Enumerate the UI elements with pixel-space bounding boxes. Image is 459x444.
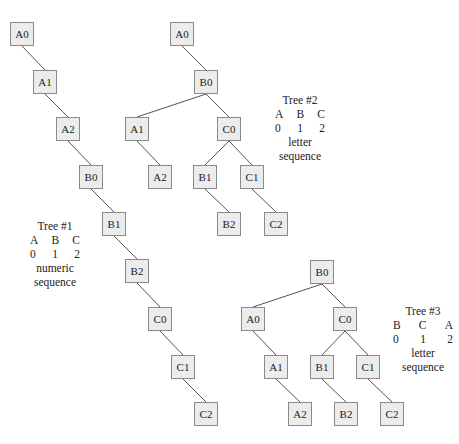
legend-letter: B — [296, 107, 304, 121]
tree1-node-c2: C2 — [194, 402, 218, 426]
legend-title: Tree #3 — [393, 304, 453, 318]
tree1-node-a1: A1 — [33, 70, 57, 94]
tree2-node-c1: C1 — [240, 165, 264, 189]
legend-number: 0 — [30, 247, 36, 261]
tree3-node-c1: C1 — [356, 355, 380, 379]
legend-letter: C — [419, 318, 427, 332]
legend-caption: sequence — [30, 275, 80, 289]
tree2-node-b0: B0 — [194, 70, 218, 94]
tree3-node-c0: C0 — [333, 307, 357, 331]
tree3-node-a2: A2 — [288, 402, 312, 426]
legend-title: Tree #1 — [30, 219, 80, 233]
legend-letters: A B C — [275, 107, 325, 121]
legend-caption: letter — [393, 346, 453, 360]
tree2-node-a1: A1 — [125, 117, 149, 141]
tree1-edge — [137, 283, 160, 307]
legend-letters: B C A — [393, 318, 453, 332]
tree3-node-a0: A0 — [241, 307, 265, 331]
tree1-edge — [160, 331, 183, 355]
legend-numbers: 0 1 2 — [393, 332, 453, 346]
tree3-node-b2: B2 — [334, 402, 358, 426]
tree2-node-b1: B1 — [193, 165, 217, 189]
legend-caption: sequence — [275, 149, 325, 163]
legend-number: 1 — [52, 247, 58, 261]
legend-tree2: Tree #2 A B C 0 1 2 letter sequence — [275, 93, 325, 163]
tree3-edge — [276, 379, 300, 402]
legend-letter: B — [393, 318, 401, 332]
legend-number: 1 — [297, 121, 303, 135]
tree3-node-c2: C2 — [380, 402, 404, 426]
tree1-node-b1: B1 — [102, 212, 126, 236]
tree2-edge — [205, 141, 229, 165]
legend-number: 2 — [319, 121, 325, 135]
legend-number: 0 — [393, 332, 399, 346]
legend-tree1: Tree #1 A B C 0 1 2 numeric sequence — [30, 219, 80, 289]
tree2-edge — [137, 94, 206, 117]
legend-caption: sequence — [393, 360, 453, 374]
tree3-edge — [345, 331, 368, 355]
legend-numbers: 0 1 2 — [275, 121, 325, 135]
tree2-edge — [182, 46, 206, 70]
legend-numbers: 0 1 2 — [30, 247, 80, 261]
tree2-node-c0: C0 — [217, 117, 241, 141]
legend-letters: A B C — [30, 233, 80, 247]
tree3-node-b1: B1 — [310, 355, 334, 379]
tree2-edge — [206, 94, 229, 117]
tree2-node-a2: A2 — [148, 165, 172, 189]
tree1-node-b0: B0 — [79, 165, 103, 189]
tree1-edge — [68, 141, 91, 165]
legend-title: Tree #2 — [275, 93, 325, 107]
tree2-edge — [137, 141, 160, 165]
legend-caption: letter — [275, 135, 325, 149]
tree3-edge — [368, 379, 392, 402]
tree2-edge — [252, 189, 276, 212]
tree1-node-b2: B2 — [125, 259, 149, 283]
tree-diagram: Tree #1 A B C 0 1 2 numeric sequence Tre… — [0, 0, 459, 444]
tree1-node-a2: A2 — [56, 117, 80, 141]
tree1-edge — [114, 236, 137, 259]
legend-letter: A — [275, 107, 283, 121]
tree1-node-c1: C1 — [171, 355, 195, 379]
legend-tree3: Tree #3 B C A 0 1 2 letter sequence — [393, 304, 453, 374]
tree3-edge — [253, 331, 276, 355]
tree1-edge — [91, 189, 114, 212]
tree3-node-b0: B0 — [310, 260, 334, 284]
tree1-node-c0: C0 — [148, 307, 172, 331]
tree3-edge — [322, 284, 345, 307]
tree3-node-a1: A1 — [264, 355, 288, 379]
legend-caption: numeric — [30, 261, 80, 275]
legend-letter: C — [72, 233, 80, 247]
tree2-edge — [205, 189, 229, 212]
legend-number: 1 — [420, 332, 426, 346]
tree2-edge — [229, 141, 252, 165]
tree3-edge — [322, 331, 345, 355]
tree3-edge — [322, 379, 346, 402]
legend-number: 2 — [447, 332, 453, 346]
tree2-node-a0: A0 — [170, 22, 194, 46]
legend-letter: C — [317, 107, 325, 121]
legend-letter: A — [445, 318, 453, 332]
tree1-edge — [45, 94, 68, 117]
tree3-edge — [253, 284, 322, 307]
legend-number: 0 — [275, 121, 281, 135]
tree2-node-c2: C2 — [264, 212, 288, 236]
legend-letter: B — [51, 233, 59, 247]
tree1-edge — [22, 46, 45, 70]
tree1-edge — [183, 379, 206, 402]
legend-number: 2 — [74, 247, 80, 261]
tree1-node-a0: A0 — [10, 22, 34, 46]
legend-letter: A — [30, 233, 38, 247]
tree2-node-b2: B2 — [217, 212, 241, 236]
